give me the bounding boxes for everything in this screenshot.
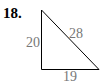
right-triangle-diagram: 20 28 19 — [0, 0, 100, 81]
side-label-left: 20 — [26, 35, 40, 50]
side-label-hypotenuse: 28 — [69, 26, 83, 41]
side-label-bottom: 19 — [63, 69, 77, 81]
